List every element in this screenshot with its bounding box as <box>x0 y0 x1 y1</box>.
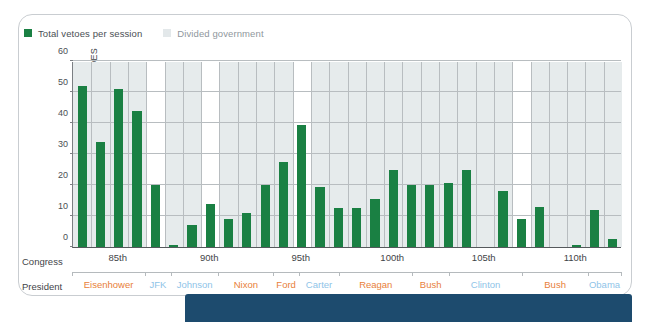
gridline-vertical <box>183 62 184 247</box>
president-tick-mark <box>218 272 219 276</box>
bar <box>78 86 87 247</box>
bar <box>517 219 526 247</box>
president-tick-mark <box>621 272 622 276</box>
president-tick-mark <box>412 272 413 276</box>
bar <box>187 225 196 247</box>
plot-wrapper: NUMBER OF VETOES 0102030405060 Congress … <box>0 0 647 322</box>
y-axis-tick-label: 20 <box>58 170 68 180</box>
y-axis-tick-label: 50 <box>58 77 68 87</box>
bar <box>279 162 288 247</box>
president-tick-mark <box>273 272 274 276</box>
y-axis-tick-mark <box>70 60 73 61</box>
plot-area: NUMBER OF VETOES 0102030405060 <box>72 62 621 248</box>
gridline-vertical <box>238 62 239 247</box>
y-axis-tick-mark <box>70 246 73 247</box>
gridline-vertical <box>219 62 220 247</box>
gridline-vertical <box>384 62 385 247</box>
gridline-vertical <box>146 62 147 247</box>
president-tick-mark <box>522 272 523 276</box>
president-label-clinton-8: Clinton <box>471 279 501 290</box>
president-name-labels: EisenhowerJFKJohnsonNixonFordCarterReaga… <box>72 279 621 295</box>
y-axis-tick-label: 30 <box>58 139 68 149</box>
gridline-vertical <box>201 62 202 247</box>
congress-tick-label: 90th <box>200 252 219 263</box>
gridline-vertical <box>604 62 605 247</box>
y-axis-tick-mark <box>70 91 73 92</box>
bar <box>132 111 141 247</box>
gridline-vertical <box>366 62 367 247</box>
bar <box>206 204 215 247</box>
gridline-vertical <box>293 62 294 247</box>
president-label-jfk-1: JFK <box>150 279 167 290</box>
gridline-vertical <box>128 62 129 247</box>
president-tick-mark <box>145 272 146 276</box>
congress-tick-label: 95th <box>292 252 311 263</box>
gridline-vertical <box>311 62 312 247</box>
gridline-vertical <box>494 62 495 247</box>
divided-government-band <box>531 62 623 247</box>
congress-tick-label: 105th <box>472 252 496 263</box>
bar <box>462 170 471 248</box>
gridline-vertical <box>512 62 513 247</box>
gridline-vertical <box>457 62 458 247</box>
president-label-reagan-6: Reagan <box>359 279 392 290</box>
president-label-eisenhower-0: Eisenhower <box>84 279 134 290</box>
congress-tick-label: 100th <box>380 252 404 263</box>
president-label-nixon-3: Nixon <box>234 279 258 290</box>
president-label-obama-10: Obama <box>589 279 620 290</box>
president-tick-mark <box>339 272 340 276</box>
y-axis-tick-label: 40 <box>58 108 68 118</box>
bar <box>444 183 453 247</box>
bar <box>352 208 361 247</box>
bar <box>261 185 270 247</box>
gridline-vertical <box>402 62 403 247</box>
bar <box>407 185 416 247</box>
bar <box>389 170 398 248</box>
gridline-vertical <box>585 62 586 247</box>
bar <box>242 213 251 247</box>
y-axis-tick-label: 60 <box>58 46 68 56</box>
president-label-johnson-2: Johnson <box>177 279 213 290</box>
bar <box>224 219 233 247</box>
bar <box>370 199 379 247</box>
gridline-horizontal <box>73 60 621 61</box>
gridline-vertical <box>91 62 92 247</box>
congress-tick-label: 85th <box>109 252 128 263</box>
gridline-vertical <box>567 62 568 247</box>
gridline-vertical <box>110 62 111 247</box>
president-label-ford-4: Ford <box>276 279 296 290</box>
gridline-vertical <box>256 62 257 247</box>
bar <box>608 239 617 247</box>
gridline-vertical <box>165 62 166 247</box>
president-tick-mark <box>299 272 300 276</box>
bar <box>297 125 306 247</box>
congress-tick-labels: 85th90th95th100th105th110th <box>72 252 621 274</box>
gridline-vertical <box>274 62 275 247</box>
bar <box>425 185 434 247</box>
bar <box>96 142 105 247</box>
president-label-bush-7: Bush <box>420 279 442 290</box>
bar <box>334 208 343 247</box>
president-tick-mark <box>449 272 450 276</box>
bar <box>169 245 178 247</box>
president-label-carter-5: Carter <box>306 279 332 290</box>
president-axis-line <box>72 272 621 273</box>
gridline-vertical <box>531 62 532 247</box>
y-axis-tick-mark <box>70 122 73 123</box>
president-tick-mark <box>588 272 589 276</box>
gridline-vertical <box>476 62 477 247</box>
bar <box>590 210 599 247</box>
president-tick-mark <box>171 272 172 276</box>
y-axis-tick-mark <box>70 215 73 216</box>
bottom-banner <box>185 294 632 322</box>
y-axis-tick-label: 10 <box>58 201 68 211</box>
congress-row-label: Congress <box>22 256 63 267</box>
bar <box>151 185 160 247</box>
bar <box>498 191 507 247</box>
gridline-vertical <box>348 62 349 247</box>
president-label-bush-9: Bush <box>544 279 566 290</box>
bar <box>315 187 324 247</box>
y-axis-tick-mark <box>70 184 73 185</box>
y-axis-tick-mark <box>70 153 73 154</box>
president-row-label: President <box>22 281 62 292</box>
